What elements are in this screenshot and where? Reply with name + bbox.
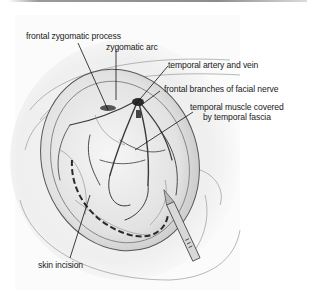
label-skin-incision: skin incision [38,260,83,270]
label-temporal-artery-and-vein: temporal artery and vein [168,60,258,70]
label-temporal-muscle-line1: temporal muscle covered [190,102,284,112]
label-frontal-branches-of-facial-nerve: frontal branches of facial nerve [164,84,278,94]
label-zygomatic-arc: zygomatic arc [106,42,158,52]
label-temporal-muscle: temporal muscle covered by temporal fasc… [190,102,284,122]
label-frontal-zygomatic-process: frontal zygomatic process [26,31,121,41]
label-temporal-muscle-line2: by temporal fascia [190,112,284,122]
